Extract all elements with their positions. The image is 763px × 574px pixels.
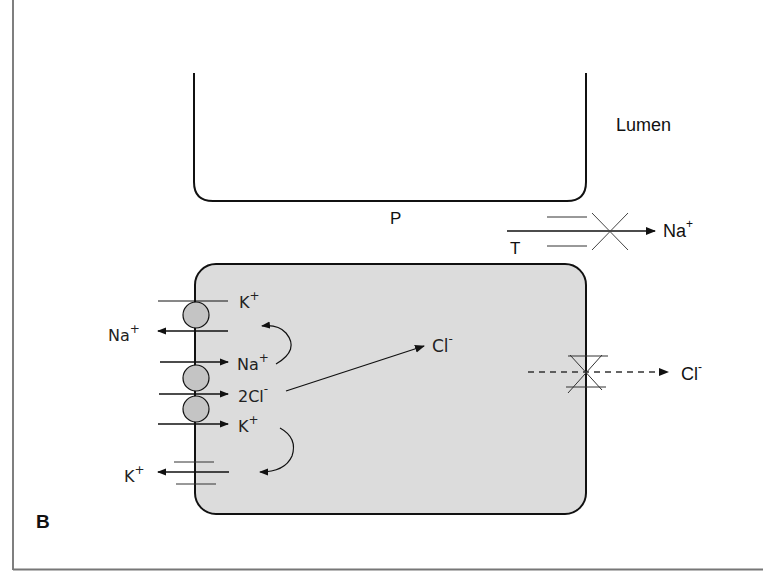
- cotransporter-upper-icon: [183, 365, 209, 391]
- diagram-canvas: Lumen P T Na+ K+ Na+ Na+ 2Cl-: [0, 0, 763, 574]
- tight-junction: [507, 213, 655, 250]
- cotransporter-lower-icon: [183, 396, 209, 422]
- panel-label: B: [36, 511, 50, 532]
- k-channel-label: K+: [124, 463, 145, 486]
- paracellular-pathway-label: P: [390, 209, 401, 228]
- cl-channel-label: Cl-: [681, 360, 702, 384]
- lumen-label: Lumen: [616, 115, 671, 135]
- pump-transporter-icon: [183, 302, 209, 328]
- junction-na-ion: Na+: [663, 217, 693, 241]
- pump-na-label: Na+: [108, 322, 140, 345]
- tight-junction-label: T: [510, 239, 520, 258]
- lumen-outline: [194, 73, 586, 201]
